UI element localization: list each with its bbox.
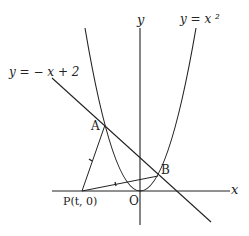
point-b-label: B bbox=[161, 164, 170, 176]
y-axis-label: y bbox=[137, 13, 144, 26]
parabola-label: y = x ² bbox=[180, 13, 220, 25]
point-p-label: P(t, 0) bbox=[63, 196, 97, 207]
tick-mark-pa bbox=[89, 159, 92, 161]
point-a-label: A bbox=[91, 120, 100, 132]
line-label: y = − x + 2 bbox=[9, 66, 79, 78]
segment-pa bbox=[82, 125, 105, 191]
tick-mark-pb bbox=[115, 182, 116, 186]
diagram-canvas bbox=[0, 0, 249, 236]
origin-label: O bbox=[129, 195, 139, 207]
diagram: y x y = x ² y = − x + 2 A B P(t, 0) O bbox=[0, 0, 249, 236]
x-axis-label: x bbox=[231, 183, 238, 196]
